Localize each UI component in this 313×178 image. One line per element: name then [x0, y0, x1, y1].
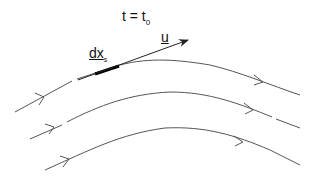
streamline-middle [30, 92, 300, 139]
streamline-bottom [45, 128, 300, 170]
velocity-label: u [161, 29, 169, 45]
streamline-diagram [0, 0, 313, 178]
flow-arrow-icon [45, 124, 54, 134]
line-element-label: dxs [89, 45, 107, 63]
streamline-top [15, 60, 300, 112]
flow-arrow-icon [244, 103, 253, 114]
time-label: t = t0 [122, 8, 150, 27]
